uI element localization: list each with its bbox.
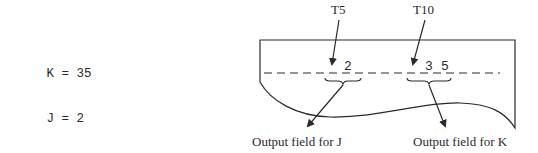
paper-sheet-outline <box>260 40 515 128</box>
t5-label: T5 <box>331 2 345 17</box>
t10-label: T10 <box>413 2 434 17</box>
j-field-arrow <box>308 85 343 126</box>
t5-arrow <box>332 20 339 64</box>
printed-j-digit: 2 <box>344 59 352 74</box>
k-field-caption: Output field for K <box>413 134 508 149</box>
t10-arrow <box>413 20 425 64</box>
output-record-diagram: T5 T10 2 3 5 Output field for J Output f… <box>0 0 538 153</box>
k-field-brace <box>407 78 451 84</box>
j-field-brace <box>325 78 361 84</box>
printed-k-digit-5: 5 <box>441 59 449 74</box>
printed-k-digit-3: 3 <box>425 59 433 74</box>
j-field-caption: Output field for J <box>252 134 342 149</box>
